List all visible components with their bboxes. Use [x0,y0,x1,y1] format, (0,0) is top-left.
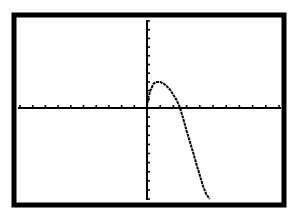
function-graph [0,0,296,221]
calculator-graph-screen [0,0,296,221]
